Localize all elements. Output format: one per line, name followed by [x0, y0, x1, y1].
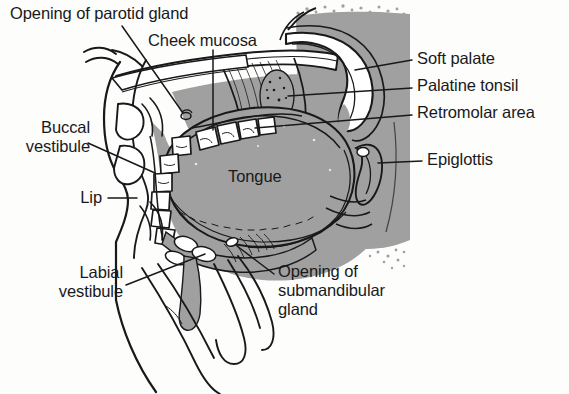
- label-labial-vestibule: Labial vestibule: [55, 263, 123, 301]
- lingual-frenulum: [179, 256, 201, 330]
- nose-profile: [84, 48, 142, 66]
- label-tongue: Tongue: [228, 167, 282, 186]
- label-buccal-vestibule: Buccal vestibule: [12, 118, 90, 156]
- label-epiglottis: Epiglottis: [427, 150, 493, 169]
- upper-lip: [116, 103, 144, 139]
- label-palatine-tonsil: Palatine tonsil: [417, 76, 518, 95]
- label-opening-of-submandibular-gland: Opening of submandibular gland: [278, 262, 385, 319]
- lower-lip: [114, 146, 144, 185]
- label-lip: Lip: [70, 188, 102, 207]
- anatomy-figure: Opening of parotid gland Cheek mucosa So…: [0, 0, 569, 394]
- label-cheek-mucosa: Cheek mucosa: [148, 31, 257, 50]
- label-soft-palate: Soft palate: [417, 49, 495, 68]
- label-opening-of-parotid-gland: Opening of parotid gland: [10, 4, 188, 23]
- label-retromolar-area: Retromolar area: [417, 103, 535, 122]
